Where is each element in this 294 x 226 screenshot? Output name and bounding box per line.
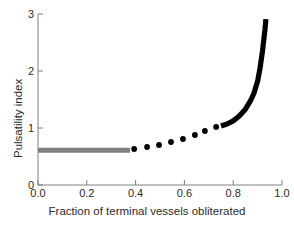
data-point [213,124,219,130]
y-tick-label-0: 0 [22,180,34,191]
data-point [168,139,174,145]
x-axis-title: Fraction of terminal vessels obliterated [0,205,294,217]
data-point [131,146,137,152]
y-tick-label-3: 3 [22,9,34,20]
data-point [192,132,198,138]
x-tick-label-2: 0.4 [128,188,143,199]
y-tick-label-2: 2 [22,66,34,77]
data-point [156,142,162,148]
data-point [180,136,186,142]
x-tick-label-3: 0.6 [177,188,192,199]
y-axis-title: Pulsatility index [12,79,24,158]
data-series-layer [38,19,266,152]
x-tick-label-4: 0.8 [226,188,241,199]
y-axis-ticks [38,14,43,185]
series-transition-points [131,124,219,152]
data-point [144,144,150,150]
x-tick-label-5: 1.0 [274,188,289,199]
series-line [221,19,266,126]
data-point [202,128,208,134]
x-tick-label-1: 0.2 [79,188,94,199]
chart-figure: 0.0 0.2 0.4 0.6 0.8 1.0 0 1 2 3 Fraction… [0,0,294,226]
x-axis-ticks [38,180,282,185]
series-steep-rise [221,19,266,126]
